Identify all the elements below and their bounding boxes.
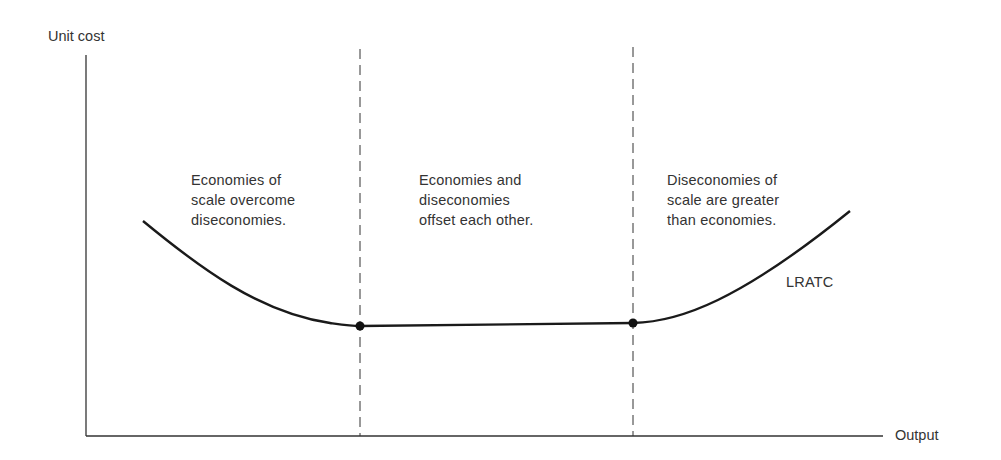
region-2-line-2: diseconomies (419, 190, 534, 210)
region-label-constant: Economies and diseconomies offset each o… (419, 170, 534, 230)
point-right (629, 319, 638, 328)
curve-label: LRATC (786, 272, 833, 292)
region-3-line-3: than economies. (667, 210, 779, 230)
region-2-line-3: offset each other. (419, 210, 534, 230)
region-label-diseconomies: Diseconomies of scale are greater than e… (667, 170, 779, 230)
region-3-line-1: Diseconomies of (667, 170, 779, 190)
x-axis-label: Output (895, 427, 939, 443)
region-3-line-2: scale are greater (667, 190, 779, 210)
y-axis-label: Unit cost (48, 28, 104, 44)
chart-canvas (0, 0, 1001, 460)
region-1-line-1: Economies of (191, 170, 295, 190)
region-label-economies: Economies of scale overcome diseconomies… (191, 170, 295, 230)
point-left (356, 322, 365, 331)
region-2-line-1: Economies and (419, 170, 534, 190)
region-1-line-3: diseconomies. (191, 210, 295, 230)
region-1-line-2: scale overcome (191, 190, 295, 210)
